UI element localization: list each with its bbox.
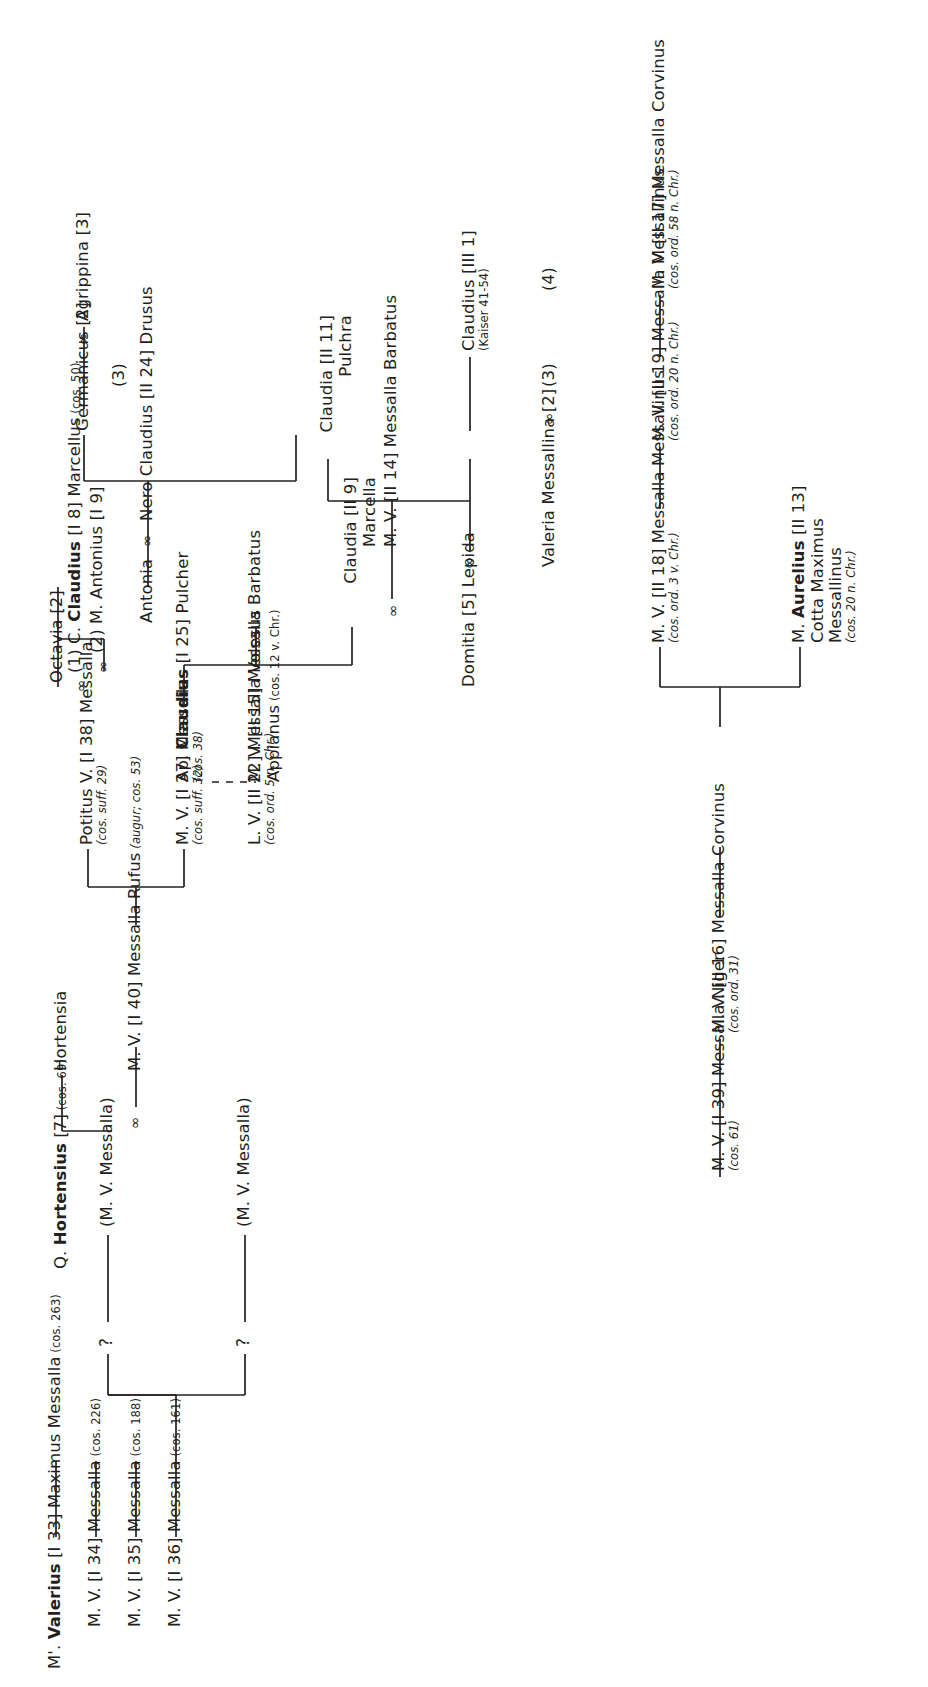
node-prenomen: M.: [789, 618, 808, 643]
node-gentile: Valerius: [45, 1563, 64, 1639]
node-label-2: Appianus: [264, 705, 283, 782]
marriage-symbol-hortensia: ∞: [126, 1117, 144, 1130]
node-prenomen: Ap.: [173, 749, 192, 782]
node-office: (cos. 226): [89, 1398, 103, 1460]
node-gentile: Aurelius: [789, 540, 808, 618]
node-label: Claudia [II 11]: [317, 315, 336, 432]
node-domitia-lepida: Domitia [5] Lepida: [460, 532, 479, 687]
node-cognomen: [I 25] Pulcher: [173, 552, 192, 669]
node-messalla-rufus: M. V. [I 40] Messalla Rufus (augur; cos.…: [126, 756, 145, 1071]
node-gentile: Claudius: [173, 669, 192, 749]
node-office: (cos. 20 n. Chr.): [845, 403, 858, 643]
node-label: M. V. [II 17] Messalla Corvinus: [649, 39, 668, 289]
node-m-antonius: (2) M. Antonius [I 9]: [88, 486, 107, 653]
node-office: (augur; cos. 53): [129, 756, 143, 853]
node-messalla-i36: M. V. [I 36] Messalla (cos. 161): [166, 1398, 185, 1627]
node-claudia-marcella: Claudia [II 9] Marcella: [342, 477, 379, 627]
node-messalla-barbatus-appianus: M. V. [II 15] Messalla Barbatus Appianus…: [246, 452, 283, 782]
node-prenomen: Q.: [51, 1245, 70, 1269]
node-order: (1) C.: [65, 622, 84, 673]
node-gentile: Claudius: [65, 541, 84, 621]
node-cognomen: [I 8] Marcellus: [65, 417, 84, 541]
node-office: (cos. 263): [49, 1294, 63, 1356]
node-label-2: Pulchra: [336, 315, 355, 377]
node-number: [7]: [51, 1114, 70, 1143]
node-label: M. V. [I 36] Messalla: [165, 1460, 184, 1627]
node-cognomen: [I 33] Maximus Messalla: [45, 1356, 64, 1563]
node-label: Claudius [III 1]: [459, 230, 478, 351]
node-label-2: Cotta Maximus: [808, 518, 827, 643]
node-label-3: Messallinus: [826, 547, 845, 643]
node-claudius-emperor: Claudius [III 1] (Kaiser 41-54): [460, 230, 491, 351]
node-number: [II 13]: [789, 486, 808, 541]
node-reign: (Kaiser 41-54): [478, 230, 491, 351]
node-gentile: Hortensius: [51, 1143, 70, 1245]
marriage-symbol-antonius: ∞: [94, 661, 112, 674]
node-hortensia: Hortensia: [52, 990, 71, 1071]
node-label: M. V. [I 35] Messalla: [125, 1460, 144, 1627]
node-number-3-agrippina: (3): [110, 363, 129, 387]
node-nero-claudius-drusus: Nero Claudius [II 24] Drusus: [138, 286, 157, 521]
node-messalla-barbatus-ii14: M. V. [II 14] Messalla Barbatus: [382, 295, 401, 547]
node-aurelius-cotta-maximus-messallinus: M. Aurelius [II 13] Cotta Maximus Messal…: [790, 403, 858, 643]
marriage-symbol-marcella: ∞: [384, 605, 402, 618]
marriage-symbol-antonia: ∞: [138, 535, 156, 548]
node-label: M. V. [II 16] Messalla Corvinus: [709, 783, 728, 1033]
node-office: (cos. 12 v. Chr.): [268, 610, 282, 705]
marriage-symbol-lepida: ∞: [460, 557, 478, 570]
node-label: M. V. [I 34] Messalla: [85, 1460, 104, 1627]
node-unknown-messalla-upper: (M. V. Messalla): [98, 1097, 117, 1227]
node-unknown-messalla-lower: (M. V. Messalla): [235, 1097, 254, 1227]
node-unknown-mark-lower: ?: [233, 1338, 253, 1347]
node-office: (cos. 38): [192, 552, 205, 782]
node-claudia-pulchra: Claudia [II 11] Pulchra: [318, 315, 355, 455]
node-number-4-messallina: (4): [540, 267, 559, 291]
node-label: M. V. [II 15] Messalla Barbatus: [245, 530, 264, 782]
node-agrippina: Agrippina [3]: [74, 212, 93, 321]
node-valerius-maximus-messalla: M'. Valerius [I 33] Maximus Messalla (co…: [46, 1294, 65, 1669]
node-messalla-corvinus-ii17: M. V. [II 17] Messalla Corvinus (cos. or…: [650, 39, 681, 289]
node-octavia: Octavia [2]: [48, 590, 67, 683]
node-messalla-corvinus-ii16: M. V. [II 16] Messalla Corvinus (cos. or…: [710, 783, 741, 1033]
stemma-canvas: M'. Valerius [I 33] Maximus Messalla (co…: [0, 0, 928, 1687]
node-unknown-mark-upper: ?: [96, 1338, 116, 1347]
node-antonia: Antonia: [138, 559, 157, 623]
node-office: (cos. ord. 31): [728, 783, 741, 1033]
node-office: (cos. 161): [169, 1398, 183, 1460]
node-label: Claudia [II 9]: [341, 477, 360, 584]
marriage-symbol-octavia: ∞: [72, 680, 90, 693]
node-q-hortensius: Q. Hortensius [7] (cos. 69): [52, 1059, 71, 1269]
node-label-2: Marcella: [360, 477, 379, 547]
node-number-3-messallina: (3): [540, 363, 559, 387]
node-messalla-i34: M. V. [I 34] Messalla (cos. 226): [86, 1398, 105, 1627]
node-germanicus: Germanicus [2]: [74, 302, 93, 431]
node-office: (cos. 188): [129, 1398, 143, 1460]
node-prenomen: M'.: [45, 1639, 64, 1669]
node-office: (cos. ord. 58 n. Chr.): [668, 39, 681, 289]
marriage-symbol-messallina: ∞: [540, 413, 558, 426]
node-messalla-i35: M. V. [I 35] Messalla (cos. 188): [126, 1398, 145, 1627]
marriage-symbol-agrippina: ∞: [74, 333, 92, 346]
node-label: M. V. [I 40] Messalla Rufus: [125, 852, 144, 1071]
node-ap-claudius-pulcher: Ap. Claudius [I 25] Pulcher (cos. 38): [174, 552, 205, 782]
